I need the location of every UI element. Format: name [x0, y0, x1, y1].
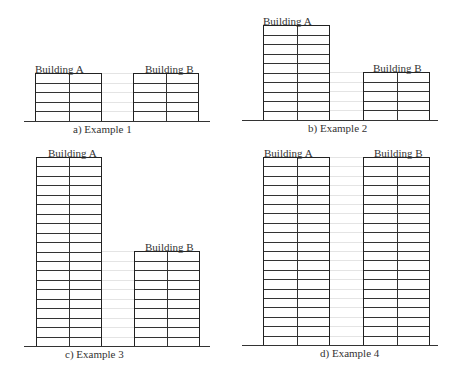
- gap-floor-line: [102, 308, 134, 309]
- gap-floor-line: [330, 298, 363, 299]
- building-a: [263, 157, 330, 346]
- gap-floor-line: [330, 336, 363, 337]
- ground-line: [24, 121, 210, 122]
- panel-caption: b) Example 2: [308, 123, 367, 134]
- building-b: [363, 72, 430, 121]
- building-a: [35, 73, 102, 122]
- gap-floor-line: [330, 232, 363, 233]
- gap-floor-line: [102, 289, 134, 290]
- column-line: [397, 73, 398, 120]
- gap-floor-line: [330, 289, 363, 290]
- gap-floor-line: [330, 213, 363, 214]
- ground-line: [242, 345, 438, 346]
- gap-floor-line: [102, 318, 134, 319]
- building-b: [363, 157, 430, 346]
- gap-floor-line: [330, 185, 363, 186]
- column-line: [397, 158, 398, 345]
- building-label: Building A: [263, 16, 312, 27]
- gap-floor-line: [330, 195, 363, 196]
- gap-floor-line: [102, 280, 134, 281]
- building-label: Building A: [48, 148, 97, 159]
- gap-floor-line: [102, 261, 134, 262]
- gap-floor-line: [102, 73, 133, 74]
- gap-floor-line: [330, 72, 363, 73]
- gap-floor-line: [102, 327, 134, 328]
- building-a: [36, 157, 102, 347]
- building-label: Building A: [35, 64, 84, 75]
- building-label: Building A: [264, 148, 313, 159]
- ground-line: [24, 346, 210, 347]
- gap-floor-line: [330, 157, 363, 158]
- column-line: [167, 252, 168, 346]
- gap-floor-line: [330, 307, 363, 308]
- gap-floor-line: [330, 166, 363, 167]
- gap-floor-line: [102, 270, 134, 271]
- gap-floor-line: [330, 317, 363, 318]
- gap-floor-line: [102, 102, 133, 103]
- gap-floor-line: [330, 110, 363, 111]
- gap-floor-line: [330, 223, 363, 224]
- gap-floor-line: [330, 176, 363, 177]
- building-label: Building B: [374, 148, 423, 159]
- building-label: Building B: [373, 63, 422, 74]
- building-a: [263, 25, 330, 121]
- gap-floor-line: [330, 270, 363, 271]
- gap-floor-line: [102, 337, 134, 338]
- gap-floor-line: [102, 111, 133, 112]
- column-line: [69, 74, 70, 121]
- gap-floor-line: [330, 242, 363, 243]
- column-line: [297, 26, 298, 120]
- gap-floor-line: [330, 101, 363, 102]
- gap-floor-line: [330, 326, 363, 327]
- gap-floor-line: [330, 251, 363, 252]
- building-label: Building B: [145, 242, 194, 253]
- panel-caption: a) Example 1: [73, 124, 132, 135]
- gap-floor-line: [102, 299, 134, 300]
- column-line: [69, 158, 70, 346]
- gap-floor-line: [102, 92, 133, 93]
- gap-floor-line: [330, 204, 363, 205]
- gap-floor-line: [330, 82, 363, 83]
- gap-floor-line: [330, 91, 363, 92]
- panel-caption: d) Example 4: [320, 348, 379, 359]
- gap-floor-line: [330, 260, 363, 261]
- building-b: [133, 73, 199, 122]
- column-line: [166, 74, 167, 121]
- ground-line: [242, 120, 438, 121]
- gap-floor-line: [330, 279, 363, 280]
- panel-caption: c) Example 3: [65, 349, 124, 360]
- column-line: [297, 158, 298, 345]
- building-b: [134, 251, 200, 347]
- gap-floor-line: [102, 251, 134, 252]
- building-label: Building B: [145, 64, 194, 75]
- gap-floor-line: [102, 83, 133, 84]
